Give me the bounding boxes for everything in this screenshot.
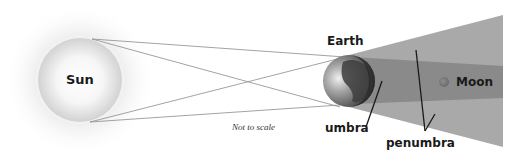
sun-label: Sun	[66, 72, 94, 87]
not-to-scale-note: Not to scale	[232, 122, 275, 132]
earth	[323, 55, 375, 107]
moon-label: Moon	[456, 75, 493, 89]
umbra-label: umbra	[325, 121, 369, 135]
moon	[439, 77, 449, 87]
earth-label: Earth	[327, 34, 364, 48]
penumbra-label: penumbra	[386, 136, 455, 150]
